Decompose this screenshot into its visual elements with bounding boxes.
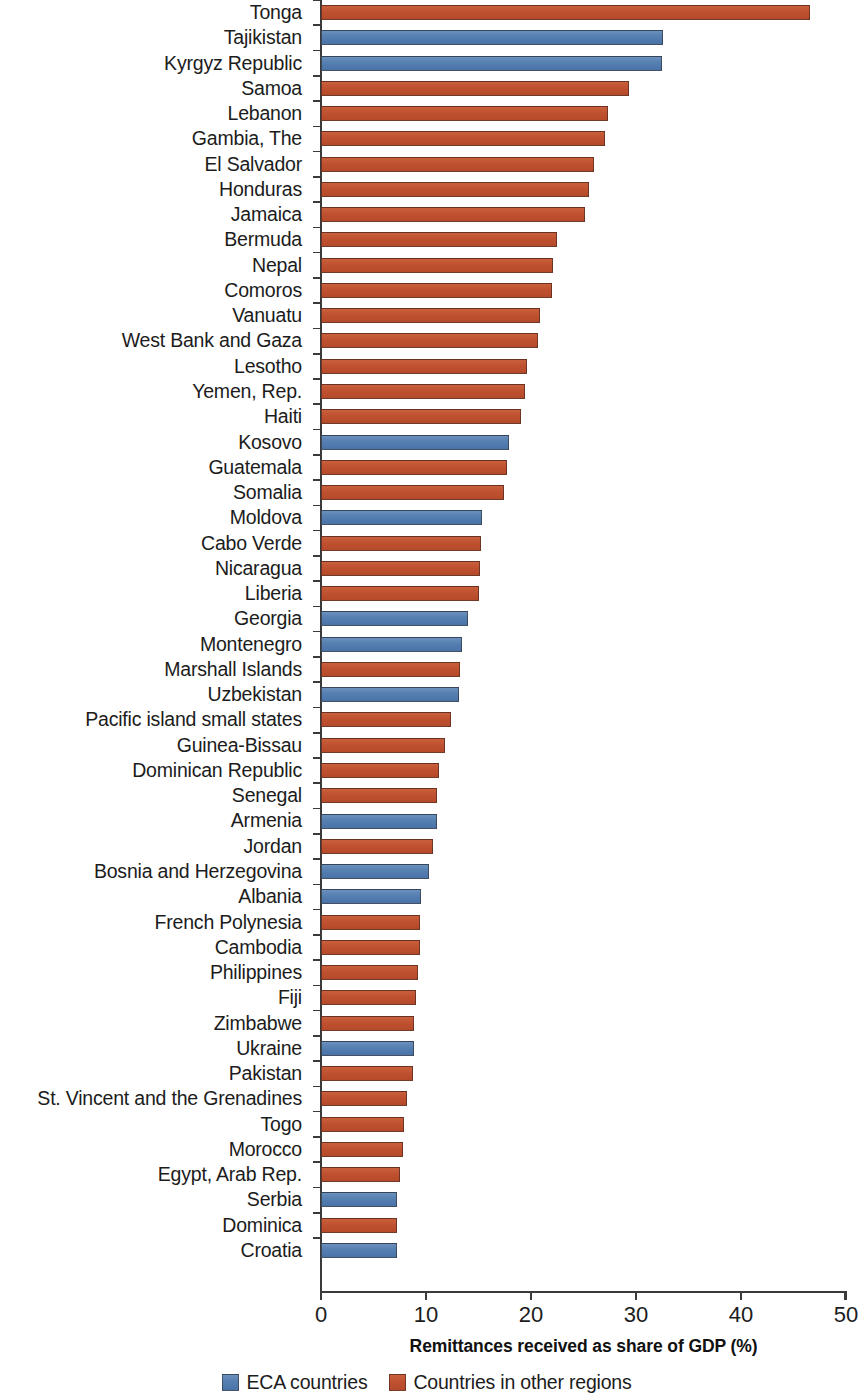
category-label: Uzbekistan (0, 682, 311, 707)
bar (321, 333, 538, 348)
bar-row: Nepal (0, 253, 854, 278)
bar (321, 232, 557, 247)
category-label: Pacific island small states (0, 707, 311, 732)
bar (321, 1117, 404, 1132)
bar (321, 182, 589, 197)
category-label: Marshall Islands (0, 657, 311, 682)
bar (321, 283, 552, 298)
bar (321, 915, 420, 930)
bar-row: Togo (0, 1112, 854, 1137)
bar-row: Fiji (0, 985, 854, 1010)
y-axis-tick (313, 833, 321, 835)
bar-row: Cabo Verde (0, 531, 854, 556)
bar-row: Croatia (0, 1238, 854, 1263)
bar-row: Tonga (0, 0, 854, 25)
bar (321, 1066, 413, 1081)
legend-item[interactable]: ECA countries (222, 1371, 367, 1394)
category-label: Ukraine (0, 1036, 311, 1061)
bar-row: Serbia (0, 1187, 854, 1212)
bar-track (321, 606, 854, 631)
category-label: Togo (0, 1112, 311, 1137)
bar-track (321, 430, 854, 455)
y-axis-tick (313, 909, 321, 911)
bar-track (321, 278, 854, 303)
bar-row: Egypt, Arab Rep. (0, 1162, 854, 1187)
bar-row: Kyrgyz Republic (0, 51, 854, 76)
y-axis-tick (313, 505, 321, 507)
category-label: Haiti (0, 404, 311, 429)
bar-row: El Salvador (0, 152, 854, 177)
y-axis-tick (313, 808, 321, 810)
y-axis-tick (313, 277, 321, 279)
category-label: Georgia (0, 606, 311, 631)
category-label: Lebanon (0, 101, 311, 126)
category-label: Albania (0, 884, 311, 909)
y-axis-tick (313, 1035, 321, 1037)
bar-track (321, 227, 854, 252)
bar-row: Tajikistan (0, 25, 854, 50)
legend-item[interactable]: Countries in other regions (389, 1371, 631, 1394)
chart-legend: ECA countriesCountries in other regions (0, 1371, 854, 1394)
y-axis-tick (313, 1187, 321, 1189)
bar-track (321, 884, 854, 909)
bar-row: Haiti (0, 404, 854, 429)
category-label: St. Vincent and the Grenadines (0, 1086, 311, 1111)
bar (321, 536, 481, 551)
category-label: Morocco (0, 1137, 311, 1162)
y-axis-tick (313, 884, 321, 886)
category-label: Comoros (0, 278, 311, 303)
bar-row: Dominican Republic (0, 758, 854, 783)
bar-track (321, 1086, 854, 1111)
y-axis-tick (313, 530, 321, 532)
y-axis-tick (313, 302, 321, 304)
category-label: Philippines (0, 960, 311, 985)
bar (321, 308, 540, 323)
bar-track (321, 354, 854, 379)
bar (321, 1192, 397, 1207)
bar (321, 460, 507, 475)
bar-track (321, 303, 854, 328)
bar (321, 359, 527, 374)
bar-track (321, 657, 854, 682)
bar-row: Guinea-Bissau (0, 733, 854, 758)
y-axis-tick (313, 1161, 321, 1163)
bar (321, 1091, 407, 1106)
y-axis-tick (313, 1237, 321, 1239)
bar-track (321, 1238, 854, 1263)
bar-track (321, 0, 854, 25)
bar-row: Philippines (0, 960, 854, 985)
category-label: Vanuatu (0, 303, 311, 328)
y-axis-tick (313, 1111, 321, 1113)
bar (321, 56, 662, 71)
category-label: Gambia, The (0, 126, 311, 151)
bar-row: Cambodia (0, 935, 854, 960)
bar (321, 384, 525, 399)
category-label: French Polynesia (0, 910, 311, 935)
bar-track (321, 834, 854, 859)
y-axis-tick (313, 580, 321, 582)
bar-row: Uzbekistan (0, 682, 854, 707)
legend-label: Countries in other regions (413, 1371, 631, 1394)
bar-row: Dominica (0, 1213, 854, 1238)
bar (321, 637, 462, 652)
category-label: Montenegro (0, 632, 311, 657)
y-axis-tick (313, 631, 321, 633)
bar (321, 586, 479, 601)
bar-track (321, 809, 854, 834)
y-axis-tick (313, 429, 321, 431)
bar (321, 788, 437, 803)
bar-track (321, 202, 854, 227)
y-axis-tick (313, 606, 321, 608)
bar (321, 687, 459, 702)
x-tick-label: 30 (624, 1302, 648, 1328)
bar-track (321, 758, 854, 783)
bar-row: Bosnia and Herzegovina (0, 859, 854, 884)
bar (321, 435, 509, 450)
bar-track (321, 910, 854, 935)
bar-row: Liberia (0, 581, 854, 606)
bar-row: Lesotho (0, 354, 854, 379)
bar-row: Comoros (0, 278, 854, 303)
y-axis-tick (313, 985, 321, 987)
bar-track (321, 531, 854, 556)
y-axis-tick (313, 151, 321, 153)
